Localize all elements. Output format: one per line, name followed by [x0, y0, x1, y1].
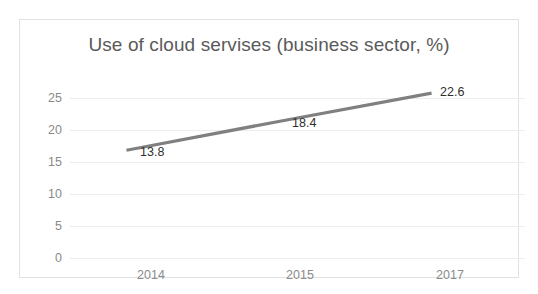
y-tick-label: 0 [28, 252, 62, 265]
y-tick-label: 20 [28, 124, 62, 137]
gridline-10 [70, 194, 525, 195]
x-tick-label-2014: 2014 [137, 269, 165, 282]
chart-title: Use of cloud servises (business sector, … [20, 34, 518, 56]
y-tick-label: 10 [28, 188, 62, 201]
gridline-20 [70, 130, 525, 131]
x-tick-label-2015: 2015 [286, 269, 314, 282]
y-tick-label: 5 [28, 220, 62, 233]
data-label-2017: 22.6 [440, 86, 464, 99]
data-label-2015: 18.4 [292, 117, 316, 130]
y-axis: 25 20 15 10 5 0 [28, 98, 62, 258]
gridline-5 [70, 226, 525, 227]
x-axis: 2014 2015 2017 [70, 269, 525, 287]
data-label-2014: 13.8 [140, 146, 164, 159]
x-tick-label-2017: 2017 [436, 269, 464, 282]
chart-frame: Use of cloud servises (business sector, … [19, 19, 519, 278]
gridline-15 [70, 162, 525, 163]
gridline-0 [70, 258, 525, 259]
y-tick-label: 25 [28, 92, 62, 105]
y-tick-label: 15 [28, 156, 62, 169]
